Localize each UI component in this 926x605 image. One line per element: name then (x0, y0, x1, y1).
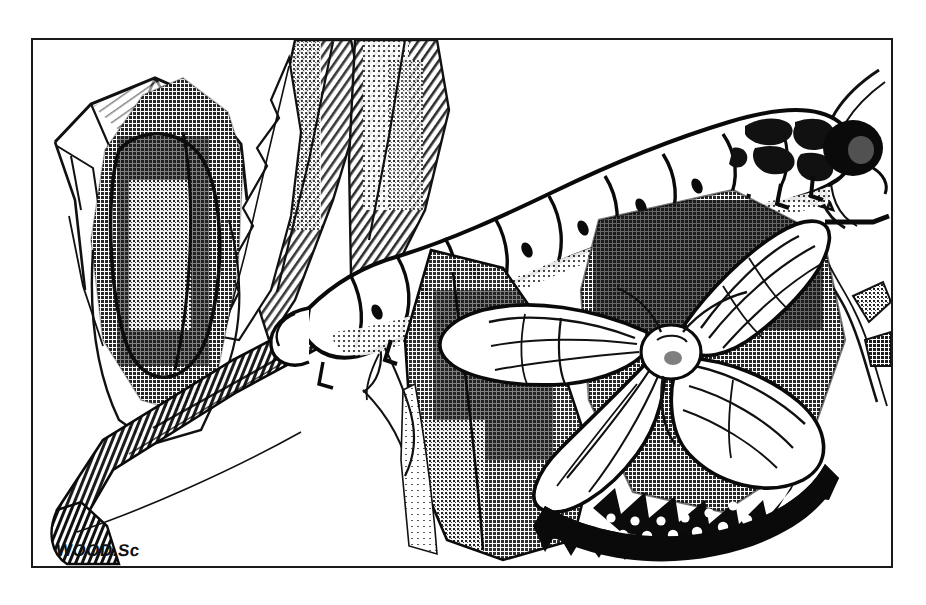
engraving-plate: Moth life-cycle engraving A branch runs … (0, 0, 926, 605)
scene-description: A branch runs diagonally from lower-left… (0, 0, 1, 1)
artist-signature: WOOD.Sc (55, 541, 141, 561)
plate-frame (31, 38, 893, 568)
engraving-artwork (33, 40, 891, 566)
plate-title: Moth life-cycle engraving (0, 0, 1, 1)
